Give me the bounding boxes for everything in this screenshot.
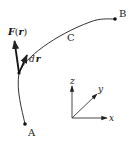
displacement-vector-arrow <box>19 55 27 73</box>
coordinate-axes: z x y <box>69 76 114 123</box>
label-point-b: B <box>119 8 126 19</box>
y-axis <box>72 94 97 118</box>
label-z-axis: z <box>69 76 75 86</box>
label-force: F(r) <box>7 26 27 37</box>
label-displacement: dr <box>29 54 42 64</box>
label-y-axis: y <box>97 84 104 94</box>
label-curve-c: C <box>67 32 75 43</box>
force-vector-arrow <box>15 41 20 73</box>
line-integral-diagram: A B C F(r) dr z x y <box>0 0 134 145</box>
label-point-a: A <box>27 127 36 138</box>
point-a <box>23 122 27 126</box>
label-x-axis: x <box>109 113 114 123</box>
point-b <box>113 17 117 21</box>
